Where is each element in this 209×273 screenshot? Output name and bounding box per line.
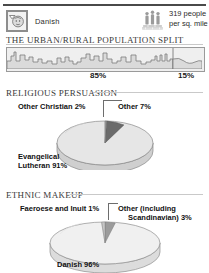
label-evangelical-line-2: Lutheran 91% [18, 161, 67, 170]
people-density-icon [142, 9, 163, 31]
language-label: Danish [35, 17, 60, 26]
urban-rural-skyline-chart [7, 48, 202, 69]
urban-percent-label: 85% [90, 71, 106, 80]
density-block: 319 people per sq. mile [142, 9, 208, 31]
leader-line-other-ethnic-horizontal [108, 203, 118, 204]
label-evangelical-line-1: Evangelical [18, 152, 59, 161]
section-rule-urban-rural [6, 44, 203, 45]
urban-rural-band [6, 47, 205, 72]
label-other-ethnic-line-1: Other (including [118, 204, 176, 213]
section-title-religion: RELIGIOUS PERSUASION [6, 88, 117, 98]
infographic-page: Danish [0, 0, 209, 273]
rural-percent-label: 15% [178, 71, 194, 80]
label-faeroese-inuit: Faeroese and Inuit 1% [20, 204, 99, 213]
label-other-christian: Other Christian 2% [18, 102, 86, 111]
label-evangelical-lutheran: Evangelical Lutheran 91% [18, 152, 67, 170]
section-title-ethnicity: ETHNIC MAKEUP [6, 190, 83, 200]
section-rule-religion [93, 92, 203, 93]
top-divider [3, 4, 206, 6]
speaking-head-icon [6, 10, 28, 32]
density-line-2: per sq. mile [169, 19, 208, 28]
header: Danish [0, 9, 209, 33]
density-text: 319 people per sq. mile [169, 9, 208, 28]
section-rule-ethnicity [70, 194, 203, 195]
label-danish: Danish 96% [57, 260, 99, 269]
religion-pie-chart [55, 113, 155, 170]
leader-line-other-christian-horizontal [103, 100, 122, 101]
density-line-1: 319 people [169, 9, 206, 18]
label-other-religion: Other 7% [118, 102, 151, 111]
language-block: Danish [6, 10, 60, 32]
